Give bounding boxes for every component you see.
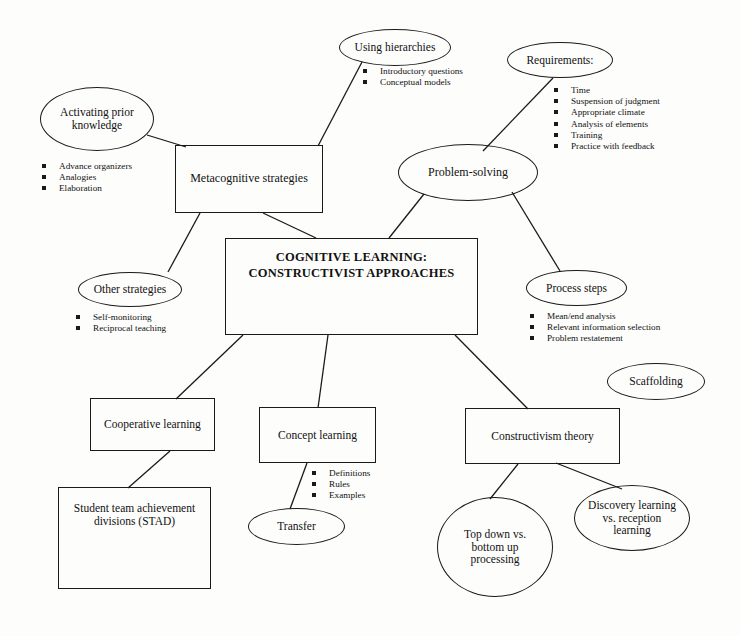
node-requirements[interactable]: Requirements: (507, 42, 613, 78)
bullet-square-icon (554, 110, 558, 114)
node-discovery-learning-vs-reception-learning[interactable]: Discovery learning vs. reception learnin… (574, 485, 690, 551)
bullet-square-icon (312, 471, 316, 475)
bullet-square-icon (530, 336, 534, 340)
edge-center-to-concept-learning (318, 335, 328, 408)
edge-requirements-to-problem-solving (483, 78, 553, 151)
bullet-text: Analogies (59, 172, 96, 183)
bullet-square-icon (76, 326, 80, 330)
bullet-item: Practice with feedback (554, 141, 660, 152)
node-label-other-strategies: Other strategies (91, 283, 170, 296)
bullet-list-other-strategies-bullets: Self-monitoringReciprocal teaching (76, 312, 166, 334)
bullet-text: Introductory questions (380, 66, 463, 77)
bullet-list-activating-prior-knowledge-bullets: Advance organizersAnalogiesElaboration (42, 161, 132, 195)
node-process-steps[interactable]: Process steps (526, 270, 627, 306)
bullet-text: Advance organizers (59, 161, 132, 172)
bullet-item: Analysis of elements (554, 119, 660, 130)
bullet-list-process-steps-bullets: Mean/end analysisRelevant information se… (530, 311, 660, 345)
node-label-problem-solving: Problem-solving (425, 166, 511, 179)
bullet-square-icon (312, 493, 316, 497)
concept-map-canvas: Activating prior knowledgeMetacognitive … (0, 0, 741, 636)
node-student-team-achievement-divisions[interactable]: Student team achievement divisions (STAD… (58, 487, 211, 589)
edge-center-to-constructivism (455, 335, 528, 409)
bullet-square-icon (554, 122, 558, 126)
bullet-item: Problem restatement (530, 333, 660, 344)
node-top-down-vs-bottom-up-processing[interactable]: Top down vs. bottom up processing (437, 497, 553, 597)
bullet-text: Suspension of judgment (571, 96, 660, 107)
bullet-text: Self-monitoring (93, 312, 152, 323)
bullet-text: Training (571, 130, 602, 141)
bullet-text: Examples (329, 490, 365, 501)
bullet-item: Self-monitoring (76, 312, 166, 323)
bullet-item: Introductory questions (363, 66, 463, 77)
bullet-square-icon (42, 164, 46, 168)
node-label-process-steps: Process steps (543, 282, 610, 295)
node-label-transfer: Transfer (274, 520, 319, 533)
bullet-text: Relevant information selection (547, 322, 660, 333)
bullet-square-icon (554, 133, 558, 137)
bullet-text: Reciprocal teaching (93, 323, 166, 334)
bullet-square-icon (554, 88, 558, 92)
bullet-text: Appropriate climate (571, 107, 645, 118)
bullet-square-icon (363, 69, 367, 73)
bullet-item: Definitions (312, 468, 370, 479)
bullet-square-icon (554, 144, 558, 148)
bullet-item: Mean/end analysis (530, 311, 660, 322)
node-other-strategies[interactable]: Other strategies (78, 272, 182, 307)
node-label-metacognitive-strategies: Metacognitive strategies (187, 172, 311, 185)
node-label-discovery-learning-vs-reception-learning: Discovery learning vs. reception learnin… (585, 499, 679, 538)
edge-constructivism-to-discovery (556, 463, 622, 489)
bullet-item: Examples (312, 490, 370, 501)
bullet-item: Elaboration (42, 183, 132, 194)
node-metacognitive-strategies[interactable]: Metacognitive strategies (175, 145, 323, 213)
node-label-concept-learning: Concept learning (275, 429, 360, 442)
edge-metacognitive-to-other-strategies (168, 213, 200, 272)
node-label-activating-prior-knowledge: Activating prior knowledge (57, 106, 137, 132)
node-label-requirements: Requirements: (523, 54, 596, 67)
edge-cooperative-to-stad (128, 451, 170, 488)
bullet-text: Rules (329, 479, 350, 490)
node-using-hierarchies[interactable]: Using hierarchies (339, 29, 451, 66)
node-activating-prior-knowledge[interactable]: Activating prior knowledge (40, 87, 154, 151)
bullet-list-using-hierarchies-bullets: Introductory questionsConceptual models (363, 66, 463, 88)
bullet-text: Analysis of elements (571, 119, 648, 130)
node-problem-solving[interactable]: Problem-solving (398, 144, 538, 201)
bullet-item: Relevant information selection (530, 322, 660, 333)
node-cooperative-learning[interactable]: Cooperative learning (90, 398, 215, 451)
bullet-list-requirements-bullets: TimeSuspension of judgmentAppropriate cl… (554, 85, 660, 152)
edge-problem-solving-to-center (389, 194, 424, 238)
bullet-square-icon (530, 325, 534, 329)
center-node-cognitive-learning[interactable]: COGNITIVE LEARNING: CONSTRUCTIVIST APPRO… (225, 238, 478, 335)
edge-concept-learning-to-transfer (290, 463, 307, 509)
bullet-item: Rules (312, 479, 370, 490)
bullet-text: Elaboration (59, 183, 102, 194)
edge-metacognitive-to-center (263, 213, 316, 238)
edge-center-to-cooperative (176, 335, 243, 399)
bullet-square-icon (42, 186, 46, 190)
bullet-item: Reciprocal teaching (76, 323, 166, 334)
bullet-item: Training (554, 130, 660, 141)
node-label-using-hierarchies: Using hierarchies (352, 41, 439, 54)
node-label-constructivism-theory: Constructivism theory (488, 430, 597, 443)
bullet-text: Definitions (329, 468, 370, 479)
bullet-item: Suspension of judgment (554, 96, 660, 107)
node-concept-learning[interactable]: Concept learning (259, 407, 376, 463)
node-transfer[interactable]: Transfer (248, 508, 345, 545)
bullet-item: Time (554, 85, 660, 96)
bullet-text: Practice with feedback (571, 141, 655, 152)
node-label-scaffolding: Scaffolding (626, 375, 685, 388)
bullet-square-icon (363, 80, 367, 84)
bullet-square-icon (42, 175, 46, 179)
bullet-text: Mean/end analysis (547, 311, 616, 322)
bullet-item: Analogies (42, 172, 132, 183)
edge-using-hierarchies-to-metacognitive (318, 62, 362, 146)
bullet-text: Conceptual models (380, 77, 451, 88)
node-constructivism-theory[interactable]: Constructivism theory (465, 408, 620, 464)
bullet-square-icon (530, 314, 534, 318)
node-label-cooperative-learning: Cooperative learning (101, 418, 204, 431)
bullet-item: Conceptual models (363, 77, 463, 88)
bullet-square-icon (312, 482, 316, 486)
edge-constructivism-to-topdown (490, 464, 518, 499)
bullet-text: Time (571, 85, 590, 96)
node-label-student-team-achievement-divisions: Student team achievement divisions (STAD… (71, 502, 198, 528)
node-scaffolding[interactable]: Scaffolding (607, 363, 705, 400)
